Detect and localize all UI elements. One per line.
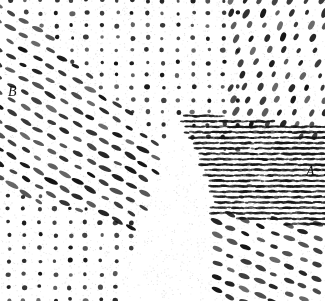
- region-label-a: A: [306, 165, 315, 179]
- region-label-b: B: [8, 85, 17, 99]
- lattice-plot-canvas: [0, 0, 325, 301]
- lattice-figure: B A: [0, 0, 325, 301]
